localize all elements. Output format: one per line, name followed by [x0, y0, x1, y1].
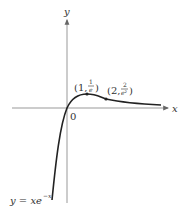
- point-2-label: (2, 2 e² ): [107, 81, 133, 96]
- svg-text:(2,: (2,: [107, 85, 120, 96]
- svg-text:e: e: [89, 86, 93, 93]
- svg-text:−x: −x: [43, 192, 52, 199]
- function-label: y = xe −x: [9, 192, 52, 206]
- origin-label: 0: [70, 111, 76, 122]
- svg-text:): ): [129, 85, 133, 96]
- svg-text:e²: e²: [121, 89, 128, 96]
- svg-text:1: 1: [89, 78, 93, 85]
- svg-text:2: 2: [123, 81, 127, 88]
- point-1-label: (1, 1 e ): [74, 78, 99, 93]
- function-graph: x y 0 (1, 1 e ) (2, 2 e² ) y = xe −x: [0, 0, 189, 213]
- svg-text:y = xe: y = xe: [9, 195, 42, 206]
- x-axis-label: x: [172, 103, 178, 114]
- y-axis-label: y: [63, 6, 70, 17]
- svg-text:(1,: (1,: [74, 82, 87, 93]
- point-inflection: [104, 97, 107, 100]
- svg-text:): ): [95, 82, 99, 93]
- curve: [52, 94, 161, 200]
